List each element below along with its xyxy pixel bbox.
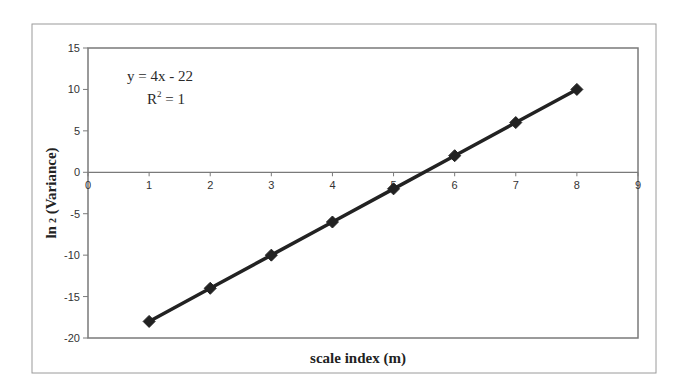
y-tick-label: 5 [74,125,80,137]
y-tick-label: -20 [64,332,80,344]
x-tick-label: 4 [329,179,335,191]
x-tick-label: 0 [85,179,91,191]
x-axis-title: scale index (m) [310,350,406,367]
x-tick-label: 2 [207,179,213,191]
x-tick-label: 3 [268,179,274,191]
x-tick-label: 8 [574,179,580,191]
chart-figure: 151050-5-10-15-20 0123456789 y = 4x - 22… [0,0,689,391]
trendline-equation: y = 4x - 22 [127,68,193,84]
r-squared-label: R2 = 1 [147,89,185,107]
y-tick-label: -15 [64,291,80,303]
y-tick-label: -5 [70,208,80,220]
y-tick-label: 0 [74,166,80,178]
x-tick-label: 7 [513,179,519,191]
y-tick-label: -10 [64,249,80,261]
x-tick-label: 9 [635,179,641,191]
y-tick-label: 15 [68,42,80,54]
x-tick-label: 1 [146,179,152,191]
x-tick-label: 6 [452,179,458,191]
y-tick-label: 10 [68,83,80,95]
